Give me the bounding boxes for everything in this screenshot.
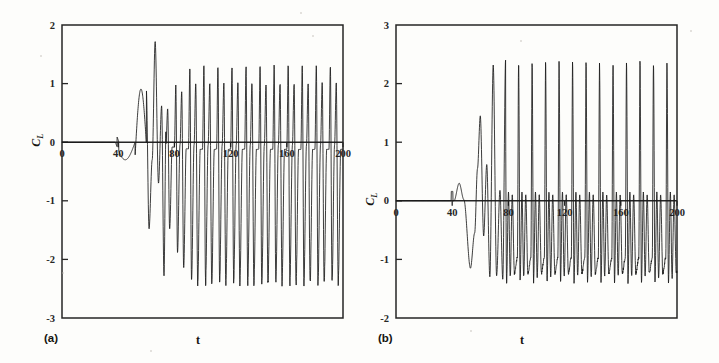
y-axis-label-base: C — [29, 139, 43, 147]
x-axis-label-a: t — [196, 333, 200, 348]
paper-speck — [62, 272, 64, 274]
x-tick-label: 120 — [557, 207, 573, 218]
panel-tag-a: (a) — [44, 332, 58, 344]
x-tick-label: 200 — [669, 207, 685, 218]
paper-speck — [690, 30, 692, 32]
figure-root: 210-1-2-304080120160200 CL (a) t 3210-1-… — [0, 0, 719, 363]
y-tick-label: 1 — [384, 137, 389, 148]
y-tick-label: 3 — [384, 20, 389, 31]
x-axis-label-b: t — [520, 333, 524, 348]
y-tick-label: 0 — [50, 137, 55, 148]
data-series-line — [396, 60, 677, 283]
panel-tag-b: (b) — [378, 332, 393, 344]
paper-speck — [40, 55, 42, 57]
y-axis-label-b: CL — [363, 184, 379, 214]
y-tick-label: -1 — [380, 254, 389, 265]
y-tick-label: -3 — [46, 313, 55, 324]
y-tick-label: 1 — [50, 78, 55, 89]
x-tick-label: 80 — [169, 148, 180, 159]
x-tick-label: 0 — [59, 148, 64, 159]
y-tick-label: 2 — [50, 20, 55, 31]
y-axis-label-subscript: L — [36, 134, 45, 139]
y-tick-label: 0 — [384, 195, 389, 206]
chart-panel-a: 210-1-2-304080120160200 CL (a) t — [0, 0, 359, 363]
paper-speck — [520, 40, 522, 42]
y-tick-label: 2 — [384, 78, 389, 89]
y-tick-label: -2 — [46, 254, 55, 265]
plot-canvas-b: 3210-1-204080120160200 — [360, 0, 719, 363]
chart-panel-b: 3210-1-204080120160200 CL (b) t — [360, 0, 719, 363]
y-axis-label-base: C — [363, 197, 377, 205]
x-tick-label: 40 — [447, 207, 458, 218]
y-tick-label: -2 — [380, 313, 389, 324]
paper-speck — [300, 12, 302, 14]
data-series-line — [62, 42, 343, 287]
paper-speck — [312, 35, 314, 37]
y-tick-label: -1 — [46, 195, 55, 206]
paper-speck — [150, 350, 152, 352]
y-axis-label-subscript: L — [370, 192, 379, 197]
y-axis-label-a: CL — [29, 125, 45, 155]
x-tick-label: 0 — [393, 207, 398, 218]
plot-canvas-a: 210-1-2-304080120160200 — [0, 0, 359, 363]
paper-speck — [470, 330, 472, 332]
